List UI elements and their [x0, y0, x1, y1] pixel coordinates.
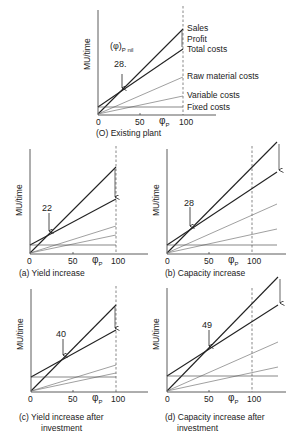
tick-label-0: 0 [165, 256, 170, 266]
variable-costs-line [167, 367, 278, 391]
y-axis-label: MU/time [82, 38, 92, 70]
tick-label-0: 0 [27, 256, 32, 266]
tick-label-100: 100 [111, 394, 125, 404]
breakeven-symbol: (φ)P nil [110, 41, 133, 55]
tick-label-100: 100 [247, 394, 261, 404]
total-costs-line [31, 330, 116, 377]
y-axis-label: MU/time [15, 318, 25, 350]
panel-caption: (O) Existing plant [96, 128, 161, 138]
panel-yield-increase-after-investment [31, 286, 148, 392]
tick-label-100: 100 [179, 117, 193, 127]
panel-caption: (a) Yield increase [19, 268, 85, 278]
x-axis-label: φP [228, 393, 239, 407]
y-axis-label: MU/time [151, 318, 161, 350]
panel-caption: (b) Capacity increase [165, 268, 245, 278]
tick-label-0: 0 [28, 394, 33, 404]
total-costs-line [167, 172, 277, 245]
phi-subscript: P [234, 261, 238, 267]
phi-subscript: P [98, 399, 102, 405]
total-costs-line [167, 305, 278, 376]
sales-line [167, 277, 278, 391]
tick-label-50: 50 [68, 256, 77, 266]
phi-subscript: P [165, 122, 169, 128]
breakeven-value: 28 [184, 198, 194, 208]
raw-material-costs-line [98, 77, 183, 114]
x-axis-label: φP [228, 255, 239, 269]
sales-label: Sales [187, 23, 208, 33]
panel-yield-increase [30, 146, 148, 254]
tick-label-0: 0 [165, 394, 170, 404]
tick-label-50: 50 [135, 117, 144, 127]
tick-label-100: 100 [247, 256, 261, 266]
y-axis-label: MU/time [151, 184, 161, 216]
tick-label-50: 50 [204, 256, 213, 266]
raw-material-costs-line [167, 342, 278, 391]
breakeven-value: 40 [56, 329, 66, 339]
panel-caption-line1: (d) Capacity increase after [165, 412, 265, 422]
panel-caption-line1: (c) Yield increase after [19, 412, 104, 422]
total-costs-label: Total costs [187, 44, 227, 54]
phi-subscript: P [234, 399, 238, 405]
figure-canvas [0, 0, 299, 439]
panel-caption-line2: investment [41, 423, 82, 433]
y-axis-label: MU/time [14, 184, 24, 216]
breakeven-value: 28. [114, 59, 127, 69]
tick-label-50: 50 [204, 394, 213, 404]
variable-costs-line [167, 229, 277, 253]
breakeven-value: 22 [42, 203, 52, 213]
panel-caption-line2: investment [177, 423, 218, 433]
profit-label: Profit [187, 34, 207, 44]
x-axis-label: φP [92, 393, 103, 407]
breakeven-symbol-main: (φ) [110, 41, 122, 51]
total-costs-line [98, 49, 183, 107]
x-axis-label: φP [92, 255, 103, 269]
phi-subscript: P [98, 261, 102, 267]
raw-material-costs-line [167, 204, 277, 253]
variable-costs-label: Variable costs [187, 90, 240, 100]
variable-costs-line [31, 373, 116, 391]
tick-label-0: 0 [96, 117, 101, 127]
fixed-costs-label: Fixed costs [187, 102, 230, 112]
breakeven-value: 49 [202, 320, 212, 330]
tick-label-100: 100 [111, 256, 125, 266]
raw-material-costs-label: Raw material costs [187, 71, 259, 81]
breakeven-symbol-sub: P nil [122, 47, 134, 53]
panel-capacity-increase-after-investment [167, 277, 286, 392]
tick-label-50: 50 [68, 394, 77, 404]
